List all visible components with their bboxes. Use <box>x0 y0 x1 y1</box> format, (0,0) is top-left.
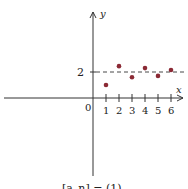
data-point <box>130 75 135 80</box>
x-tick-label: 1 <box>103 105 109 116</box>
scatter-chart: y x 0 2 123456 [a_n] = (1)... <box>0 0 188 189</box>
caption: [a_n] = (1)... <box>62 182 132 189</box>
x-tick-label: 3 <box>129 105 135 116</box>
data-point <box>169 68 174 73</box>
x-tick-label: 4 <box>142 105 148 116</box>
data-points <box>104 64 174 87</box>
x-tick-label: 6 <box>168 105 174 116</box>
data-point <box>143 66 148 71</box>
data-point <box>156 74 161 79</box>
x-axis-label: x <box>176 84 182 95</box>
x-tick-label: 5 <box>155 105 161 116</box>
x-tick-label: 2 <box>116 105 122 116</box>
origin-label: 0 <box>85 102 91 113</box>
y-tick-2: 2 <box>77 66 84 79</box>
x-ticks: 123456 <box>103 94 174 116</box>
data-point <box>117 64 122 69</box>
data-point <box>104 83 109 88</box>
y-axis-label: y <box>99 8 106 19</box>
